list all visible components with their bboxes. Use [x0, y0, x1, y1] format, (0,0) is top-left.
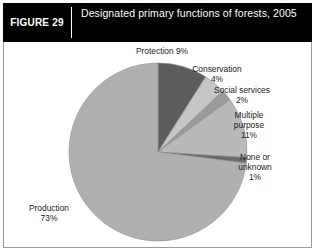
label-social-services-name: Social services	[182, 85, 302, 96]
chart-plot-area: Protection 9% Conservation 4% Social ser…	[4, 42, 311, 247]
label-social-services-value: 2%	[182, 95, 302, 106]
label-multiple-purpose-value: 11%	[194, 130, 304, 141]
label-none-unknown-name-1: None or	[200, 152, 310, 163]
label-conservation-value: 4%	[162, 74, 272, 85]
figure-title: Designated primary functions of forests,…	[81, 7, 307, 20]
figure-header: FIGURE 29 Designated primary functions o…	[3, 3, 312, 42]
label-multiple-purpose-name-2: purpose	[194, 120, 304, 131]
figure-number: FIGURE 29	[3, 3, 71, 42]
figure-container: FIGURE 29 Designated primary functions o…	[0, 0, 316, 252]
label-protection: Protection 9%	[107, 46, 217, 57]
header-divider	[71, 7, 72, 38]
label-none-unknown-name-2: unknown	[200, 162, 310, 173]
label-conservation-name: Conservation	[162, 64, 272, 75]
label-production-value: 73%	[9, 213, 89, 224]
label-none-unknown-value: 1%	[200, 172, 310, 183]
label-multiple-purpose-name-1: Multiple	[194, 110, 304, 121]
label-production-name: Production	[9, 203, 89, 214]
